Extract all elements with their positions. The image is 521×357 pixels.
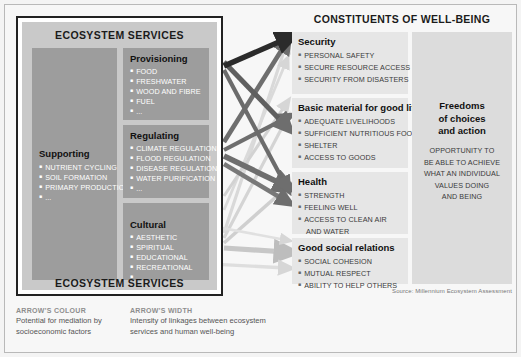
service-box-regulating[interactable]: Regulating CLIMATE REGULATIONFLOOD REGUL… <box>123 125 209 198</box>
list-item: PERSONAL SAFETY <box>298 49 410 61</box>
list-item: ACCESS TO GOODS <box>298 151 418 163</box>
list-item: FOOD <box>130 66 201 76</box>
list-item: ACCESS TO CLEAN AIR <box>298 213 387 225</box>
service-box-cultural[interactable]: Cultural AESTHETICSPIRITUALEDUCATIONALRE… <box>123 203 209 280</box>
freedoms-body: OPPORTUNITY TOBE ABLE TO ACHIEVEWHAT AN … <box>412 145 512 203</box>
list-item: PRIMARY PRODUCTION <box>39 182 130 192</box>
list-item: MUTUAL RESPECT <box>298 267 397 279</box>
legend-arrow-colour: ARROW'S COLOUR Potential for mediation b… <box>16 307 121 337</box>
list-item: WATER PURIFICATION <box>130 173 217 183</box>
list-item: AND WATER <box>298 225 387 237</box>
wellbeing-box-freedoms[interactable]: Freedomsof choicesand action OPPORTUNITY… <box>412 32 512 284</box>
health-list: STRENGTHFEELING WELLACCESS TO CLEAN AIRA… <box>298 189 387 237</box>
security-heading: Security <box>298 36 336 47</box>
list-item: SPIRITUAL <box>130 242 193 252</box>
list-item: SOCIAL COHESION <box>298 255 397 267</box>
regulating-heading: Regulating <box>130 130 179 141</box>
list-item: SECURE RESOURCE ACCESS <box>298 61 410 73</box>
wellbeing-box-health[interactable]: Health STRENGTHFEELING WELLACCESS TO CLE… <box>292 172 408 234</box>
service-box-supporting[interactable]: Supporting NUTRIENT CYCLINGSOIL FORMATIO… <box>32 48 117 280</box>
health-heading: Health <box>298 176 327 187</box>
list-item: RECREATIONAL <box>130 262 193 272</box>
list-item: FEELING WELL <box>298 201 387 213</box>
source-note: Source: Millennium Ecosystem Assessment <box>352 288 512 294</box>
wellbeing-box-basic-material[interactable]: Basic material for good life ADEQUATE LI… <box>292 98 408 168</box>
ecosystem-services-title-top: ECOSYSTEM SERVICES <box>22 29 217 41</box>
regulating-list: CLIMATE REGULATIONFLOOD REGULATIONDISEAS… <box>130 143 217 193</box>
list-item: SECURITY FROM DISASTERS <box>298 73 410 85</box>
list-item: SHELTER <box>298 139 418 151</box>
list-item: CLIMATE REGULATION <box>130 143 217 153</box>
list-item: ... <box>39 192 130 202</box>
supporting-heading: Supporting <box>39 148 90 159</box>
wellbeing-box-social-relations[interactable]: Good social relations SOCIAL COHESIONMUT… <box>292 238 408 284</box>
list-item: DISEASE REGULATION <box>130 163 217 173</box>
provisioning-heading: Provisioning <box>130 53 188 64</box>
list-item: ... <box>130 183 217 193</box>
list-item: FLOOD REGULATION <box>130 153 217 163</box>
list-item: AESTHETIC <box>130 232 193 242</box>
provisioning-list: FOODFRESHWATERWOOD AND FIBREFUEL... <box>130 66 201 116</box>
ecosystem-services-title-bottom: ECOSYSTEM SERVICES <box>16 277 223 289</box>
legend-colour-heading: ARROW'S COLOUR <box>16 307 121 314</box>
list-item: ... <box>130 106 201 116</box>
list-item: EDUCATIONAL <box>130 252 193 262</box>
list-item: ADEQUATE LIVELIHOODS <box>298 115 418 127</box>
legend-width-heading: ARROW'S WIDTH <box>130 307 330 314</box>
ecosystem-services-panel: ECOSYSTEM SERVICES Supporting NUTRIENT C… <box>16 16 223 296</box>
legend-colour-body: Potential for mediation bysocioeconomic … <box>16 316 121 337</box>
basic-material-heading: Basic material for good life <box>298 102 420 113</box>
figure-root: ECOSYSTEM SERVICES Supporting NUTRIENT C… <box>0 0 521 357</box>
service-box-provisioning[interactable]: Provisioning FOODFRESHWATERWOOD AND FIBR… <box>123 48 209 120</box>
social-relations-heading: Good social relations <box>298 242 395 253</box>
wellbeing-box-security[interactable]: Security PERSONAL SAFETYSECURE RESOURCE … <box>292 32 408 94</box>
cultural-list: AESTHETICSPIRITUALEDUCATIONALRECREATIONA… <box>130 232 193 282</box>
list-item: SOIL FORMATION <box>39 172 130 182</box>
legend-width-body: Intensity of linkages between ecosystems… <box>130 316 330 337</box>
list-item: NUTRIENT CYCLING <box>39 162 130 172</box>
list-item: FRESHWATER <box>130 76 201 86</box>
list-item: WOOD AND FIBRE <box>130 86 201 96</box>
social-relations-list: SOCIAL COHESIONMUTUAL RESPECTABILITY TO … <box>298 255 397 291</box>
list-item: SUFFICIENT NUTRITIOUS FOOD <box>298 127 418 139</box>
cultural-heading: Cultural <box>130 219 166 230</box>
basic-material-list: ADEQUATE LIVELIHOODSSUFFICIENT NUTRITIOU… <box>298 115 418 163</box>
freedoms-heading: Freedomsof choicesand action <box>412 100 512 138</box>
list-item: STRENGTH <box>298 189 387 201</box>
security-list: PERSONAL SAFETYSECURE RESOURCE ACCESSSEC… <box>298 49 410 85</box>
legend-arrow-width: ARROW'S WIDTH Intensity of linkages betw… <box>130 307 330 337</box>
list-item: FUEL <box>130 96 201 106</box>
ecosystem-services-inner: ECOSYSTEM SERVICES Supporting NUTRIENT C… <box>22 22 217 290</box>
supporting-list: NUTRIENT CYCLINGSOIL FORMATIONPRIMARY PR… <box>39 162 130 202</box>
wellbeing-panel-title: CONSTITUENTS OF WELL-BEING <box>288 13 516 25</box>
